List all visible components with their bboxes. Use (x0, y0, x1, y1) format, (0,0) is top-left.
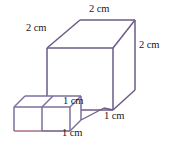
label-large-cube-top-depth: 2 cm (26, 23, 46, 34)
label-unit-cube-width: 1 cm (62, 128, 82, 139)
label-large-cube-height: 2 cm (139, 40, 159, 51)
label-unit-cube-depth: 1 cm (104, 111, 124, 122)
label-large-cube-top-width: 2 cm (89, 4, 109, 15)
geometry-figure: 2 cm 2 cm 2 cm 1 cm 1 cm 1 cm (0, 0, 169, 147)
label-unit-cube-height: 1 cm (63, 96, 83, 107)
unit-cube-left-front-face (14, 107, 42, 131)
